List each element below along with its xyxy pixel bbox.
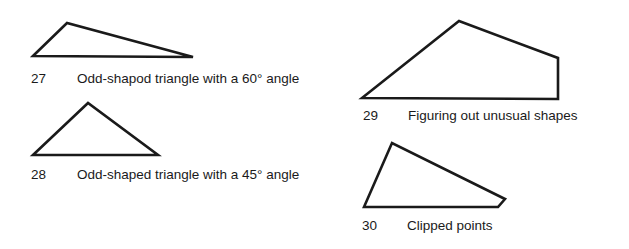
figure-number: 28 — [31, 167, 46, 183]
figure-caption-text: Odd-shaped triangle with a 45° angle — [77, 167, 299, 183]
figure-29-quadrilateral-shape — [362, 21, 558, 99]
figure-30-clipped-triangle-shape — [364, 143, 505, 207]
figure-number: 29 — [363, 108, 378, 124]
figure-number: 27 — [31, 71, 46, 87]
figure-number: 30 — [362, 218, 377, 234]
diagram-canvas — [0, 0, 629, 249]
figure-caption-text: Clipped points — [407, 218, 493, 234]
figure-27-triangle-shape — [33, 23, 193, 57]
figure-28-triangle-shape — [33, 103, 158, 155]
figure-caption-text: Figuring out unusual shapes — [408, 108, 578, 124]
figure-caption-text: Odd-shapod triangle with a 60° angle — [77, 71, 299, 87]
